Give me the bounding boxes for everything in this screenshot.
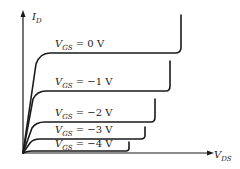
- label-vgs-minus-3: VGS = −3 V: [55, 124, 113, 138]
- y-axis-label: ID: [31, 11, 42, 25]
- y-axis-arrow-icon: [21, 10, 26, 17]
- x-axis-arrow-icon: [207, 151, 214, 156]
- label-vgs-minus-1: VGS = −1 V: [55, 76, 113, 90]
- label-vgs-0: VGS = 0 V: [55, 38, 105, 52]
- label-vgs-minus-2: VGS = −2 V: [55, 107, 113, 121]
- label-vgs-minus-4: VGS = −4 V: [55, 138, 113, 152]
- jfet-characteristics-diagram: ID VDS VGS = 0 V VGS = −1 V VGS = −2 V V…: [0, 0, 240, 169]
- x-axis-label: VDS: [214, 149, 232, 163]
- axes: [23, 14, 210, 153]
